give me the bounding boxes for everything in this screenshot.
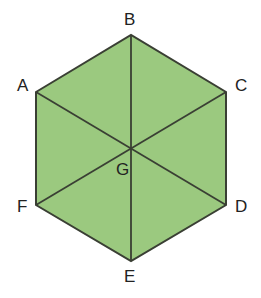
label-a: A xyxy=(17,77,28,94)
label-d: D xyxy=(235,198,247,215)
label-g: G xyxy=(116,161,129,178)
label-f: F xyxy=(17,198,27,215)
label-b: B xyxy=(124,11,135,28)
hexagon-diagram xyxy=(0,0,261,298)
label-c: C xyxy=(235,77,247,94)
label-e: E xyxy=(124,268,135,285)
